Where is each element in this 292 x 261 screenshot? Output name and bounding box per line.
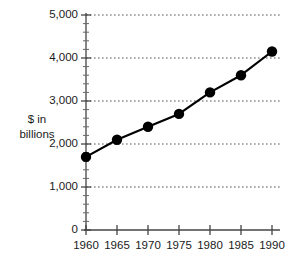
gridlines xyxy=(86,15,280,187)
y-axis-title-line-2: billions xyxy=(8,127,66,142)
y-tick-label-5000: 5,000 xyxy=(44,8,78,20)
y-tick-label-1000: 1,000 xyxy=(44,180,78,192)
data-point-1975 xyxy=(174,109,184,119)
x-tick-label-1990: 1990 xyxy=(254,239,290,251)
y-tick-label-0: 0 xyxy=(44,223,78,235)
y-axis-title: $ in billions xyxy=(8,112,66,142)
y-axis-title-line-1: $ in xyxy=(8,112,66,127)
data-point-1965 xyxy=(112,135,122,145)
data-point-1985 xyxy=(236,70,246,80)
data-point-1990 xyxy=(267,46,277,56)
data-markers xyxy=(81,46,277,162)
data-point-1980 xyxy=(205,87,215,97)
line-chart: 5,000 4,000 3,000 2,000 1,000 0 1960 196… xyxy=(0,0,292,261)
data-point-1970 xyxy=(143,122,153,132)
data-point-1960 xyxy=(81,152,91,162)
y-tick-label-3000: 3,000 xyxy=(44,94,78,106)
y-tick-label-4000: 4,000 xyxy=(44,51,78,63)
